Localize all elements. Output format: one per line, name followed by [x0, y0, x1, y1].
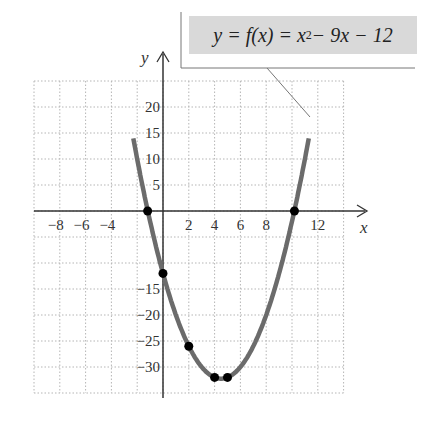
equation-lhs: y = f(x) = x: [213, 24, 306, 47]
x-tick-label: 12: [310, 217, 325, 233]
y-tick-label: 15: [145, 125, 160, 141]
x-tick-label: −4: [99, 217, 115, 233]
y-tick-label: −15: [137, 281, 160, 297]
y-tick-label: 10: [145, 151, 160, 167]
x-tick-label: 4: [211, 217, 219, 233]
x-tick-label: −6: [74, 217, 90, 233]
data-point: [184, 342, 193, 351]
equation-rest: − 9x − 12: [312, 24, 393, 47]
y-tick-label: 20: [145, 99, 160, 115]
data-point: [210, 373, 219, 382]
x-axis-label: x: [359, 218, 368, 237]
x-tick-labels: −8−6−4246812: [48, 217, 325, 233]
data-points: [143, 207, 299, 382]
data-point: [223, 373, 232, 382]
chart-canvas: x y −8−6−4246812 2015105−15−20−25−30: [0, 0, 438, 423]
y-tick-label: −25: [137, 333, 160, 349]
equation-label: y = f(x) = x2 − 9x − 12: [189, 16, 417, 54]
y-axis-label: y: [139, 48, 149, 67]
x-tick-label: 2: [185, 217, 193, 233]
leader-line: [267, 68, 310, 117]
y-tick-label: −30: [137, 359, 160, 375]
x-tick-label: 6: [237, 217, 245, 233]
y-tick-label: −20: [137, 307, 160, 323]
data-point: [159, 269, 168, 278]
x-tick-label: 8: [262, 217, 270, 233]
x-tick-label: −8: [48, 217, 64, 233]
data-point: [290, 207, 299, 216]
data-point: [143, 207, 152, 216]
y-tick-label: 5: [153, 177, 161, 193]
